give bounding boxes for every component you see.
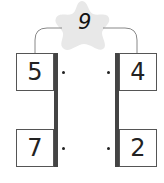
left-dot-1: [62, 71, 65, 74]
right-dot-1: [107, 71, 110, 74]
left-box-2[interactable]: 7: [16, 129, 54, 167]
top-number: 9: [78, 10, 91, 34]
left-bar: [54, 53, 58, 167]
right-box-1[interactable]: 4: [119, 53, 157, 91]
left-box-1[interactable]: 5: [16, 53, 54, 91]
left-dot-2: [62, 147, 65, 150]
right-box-2[interactable]: 2: [119, 129, 157, 167]
right-dot-2: [107, 147, 110, 150]
